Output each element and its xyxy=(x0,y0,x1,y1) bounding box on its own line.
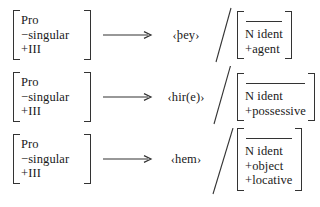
feature-line: N ident xyxy=(245,89,306,104)
output-form: ‹hem› xyxy=(161,152,211,166)
feature-line: +III xyxy=(21,166,82,181)
environment-feature-matrix: N ident +agent xyxy=(237,11,292,60)
slash-separator-icon xyxy=(211,128,237,190)
rewrite-rules-diagram: Pro −singular +III ‹þey› N ident +agent xyxy=(0,0,320,207)
slash-separator-icon xyxy=(211,4,237,66)
output-form: ‹þey› xyxy=(161,28,211,42)
feature-line: +object xyxy=(245,159,293,174)
feature-line: N ident xyxy=(245,27,283,42)
feature-line: N ident xyxy=(245,144,293,159)
feature-line: Pro xyxy=(21,75,82,90)
input-feature-matrix: Pro −singular +III xyxy=(13,72,91,122)
environment-feature-matrix: N ident +object +locative xyxy=(237,128,302,191)
output-form: ‹hir(e)› xyxy=(161,90,211,104)
blank-slot-line xyxy=(245,13,283,28)
environment-feature-matrix: N ident +possessive xyxy=(237,73,315,122)
blank-slot-line xyxy=(245,75,306,90)
rightwards-arrow-icon xyxy=(101,128,157,190)
rightwards-arrow-icon xyxy=(101,4,157,66)
blank-slot-line xyxy=(245,130,293,145)
input-feature-matrix: Pro −singular +III xyxy=(13,10,91,60)
rule-row: Pro −singular +III ‹hem› N ident +object… xyxy=(0,128,320,190)
slash-separator-icon xyxy=(211,66,237,128)
feature-line: +III xyxy=(21,42,82,57)
feature-line: −singular xyxy=(21,90,82,105)
feature-line: Pro xyxy=(21,13,82,28)
rightwards-arrow-icon xyxy=(101,66,157,128)
feature-line: +agent xyxy=(245,42,283,57)
feature-line: +III xyxy=(21,104,82,119)
input-feature-matrix: Pro −singular +III xyxy=(13,134,91,184)
feature-line: +locative xyxy=(245,173,293,188)
feature-line: +possessive xyxy=(245,104,306,119)
environment-wrapper: N ident +agent xyxy=(237,11,292,60)
feature-line: −singular xyxy=(21,152,82,167)
environment-wrapper: N ident +possessive xyxy=(237,73,315,122)
rule-row: Pro −singular +III ‹þey› N ident +agent xyxy=(0,4,320,66)
feature-line: −singular xyxy=(21,28,82,43)
environment-wrapper: N ident +object +locative xyxy=(237,128,302,191)
feature-line: Pro xyxy=(21,137,82,152)
rule-row: Pro −singular +III ‹hir(e)› N ident +pos… xyxy=(0,66,320,128)
